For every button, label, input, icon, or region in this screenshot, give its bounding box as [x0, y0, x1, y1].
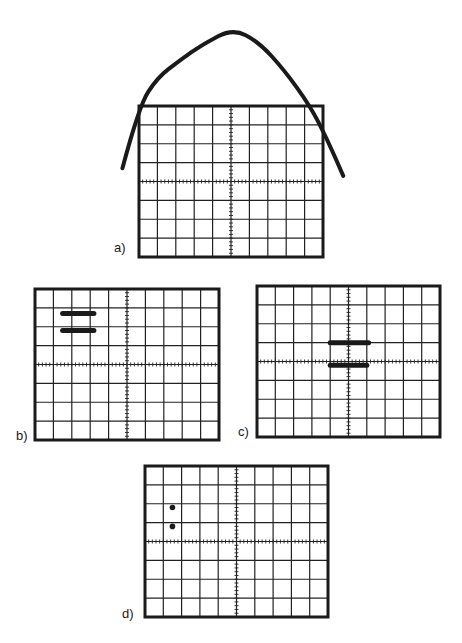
screen-panel-b — [35, 289, 219, 440]
panel-label-b: b) — [16, 428, 28, 443]
screen-panel-a — [122, 32, 343, 257]
trace-dot — [170, 505, 176, 511]
screen-panel-d — [145, 466, 328, 617]
screen-panel-c — [257, 286, 440, 437]
panel-label-a: a) — [114, 240, 126, 255]
trace-curve — [122, 32, 343, 176]
trace-dot — [170, 524, 176, 530]
panel-label-c: c) — [238, 424, 249, 439]
panel-label-d: d) — [122, 606, 134, 621]
oscilloscope-figure: a) b) c) d) — [0, 0, 462, 643]
